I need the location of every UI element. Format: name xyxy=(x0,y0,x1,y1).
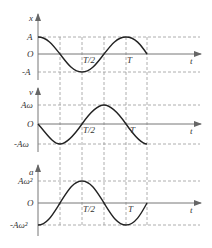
period-label: T xyxy=(130,125,136,135)
amplitude-label: Aω xyxy=(20,100,33,110)
amplitude-label: A xyxy=(26,32,33,42)
half-period-label: T/2 xyxy=(83,55,96,65)
t-axis-label: t xyxy=(190,56,193,66)
t-axis-label: t xyxy=(190,205,193,215)
displacement-graph: x t A O -A T/2 T xyxy=(22,13,201,80)
neg-amplitude-label: -A xyxy=(22,67,31,77)
y-axis-label: v xyxy=(29,87,33,97)
t-axis-label: t xyxy=(190,126,193,136)
acceleration-graph: a t Aω² O -Aω² T/2 T xyxy=(10,165,201,236)
shm-graphs: x t A O -A T/2 T v t Aω O -Aω T/2 T a t … xyxy=(0,0,212,248)
half-period-label: T/2 xyxy=(83,204,96,214)
y-axis-label: x xyxy=(28,13,33,23)
period-label: T xyxy=(127,55,133,65)
origin-label: O xyxy=(27,119,34,129)
period-label: T xyxy=(128,204,134,214)
half-period-label: T/2 xyxy=(83,125,96,135)
origin-label: O xyxy=(27,49,34,59)
neg-amplitude-label: -Aω xyxy=(14,139,29,149)
neg-amplitude-label: -Aω² xyxy=(10,220,28,230)
origin-label: O xyxy=(27,198,34,208)
velocity-graph: v t Aω O -Aω T/2 T xyxy=(14,87,201,152)
amplitude-label: Aω² xyxy=(17,176,33,186)
